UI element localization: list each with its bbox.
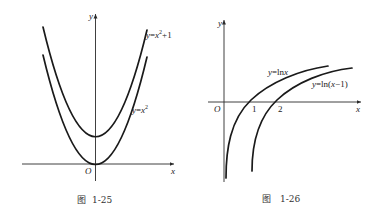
tick-label-2: 2: [278, 104, 283, 114]
figure-caption-number: 1-26: [280, 194, 300, 204]
x-axis-label: x: [170, 166, 175, 176]
origin-label: O: [214, 104, 221, 114]
figure-1-25: y x O y=x2+1 y=x2 图 1-25: [22, 11, 175, 205]
curve-label-x-squared-plus-one: y=x2+1: [145, 29, 172, 40]
figure-caption-prefix: 图: [77, 195, 86, 205]
origin-label: O: [85, 166, 92, 176]
curve-label-x-squared: y=x2: [131, 104, 148, 115]
curve-label-ln-x-minus-one: y=ln(x−1): [311, 79, 348, 89]
figure-caption-prefix: 图: [262, 194, 271, 204]
y-axis-label: y: [88, 11, 93, 21]
figure-caption-number: 1-25: [92, 195, 112, 205]
figures-canvas: y x O y=x2+1 y=x2 图 1-25 y x O 1 2 y=lnx: [0, 0, 376, 215]
figure-1-26: y x O 1 2 y=lnx y=ln(x−1) 图 1-26: [208, 18, 361, 204]
curve-label-ln-x: y=lnx: [267, 67, 288, 77]
y-axis-label: y: [217, 18, 222, 28]
x-axis-label: x: [355, 104, 360, 114]
tick-label-1: 1: [252, 104, 257, 114]
curve-x-squared-plus-one: [43, 27, 147, 137]
